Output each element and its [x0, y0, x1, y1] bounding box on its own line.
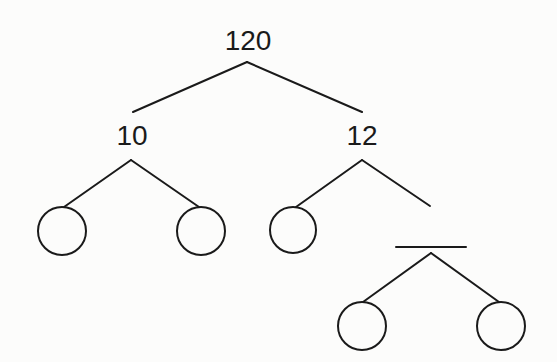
empty-circle-bottom-left[interactable]	[338, 302, 386, 350]
node-root-label: 120	[225, 27, 272, 55]
branch-blank-left	[363, 253, 431, 302]
branch-10-right	[131, 160, 199, 207]
empty-circle-12-left[interactable]	[270, 207, 316, 253]
branch-12-left	[296, 160, 362, 207]
branch-12-right	[362, 160, 430, 206]
branch-120-to-12	[247, 62, 362, 112]
node-10-label: 10	[116, 122, 147, 150]
empty-circle-bottom-right[interactable]	[477, 302, 525, 350]
branch-10-left	[64, 160, 131, 207]
factor-tree-diagram	[0, 0, 557, 362]
empty-circle-10-left[interactable]	[38, 207, 86, 255]
node-12-label: 12	[346, 122, 377, 150]
branch-blank-right	[431, 253, 499, 302]
empty-circle-10-right[interactable]	[177, 207, 225, 255]
branch-120-to-10	[133, 62, 247, 112]
